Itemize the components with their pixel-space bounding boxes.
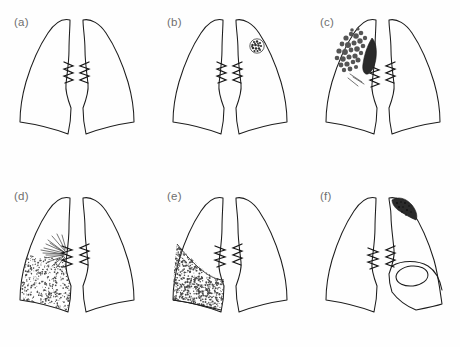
panel-e-diagram [153,174,306,347]
cluster-streaks [348,74,364,86]
basal-infiltrate [21,255,74,312]
lung-outline-left [20,20,71,134]
lung-outline-right [83,20,134,134]
panel-d-diagram [0,174,153,347]
hilar-mass [363,38,377,74]
panel-b-diagram [153,0,306,173]
panel-b: (b) [153,0,306,173]
lung-outline-right [389,20,440,134]
panel-c: (c) [306,0,459,173]
lung-outline-right [236,20,287,134]
panel-f-diagram [306,174,459,347]
lung-outline-right [236,198,287,312]
cavity-ring-lesion [395,264,429,287]
solitary-nodule [250,39,264,53]
lung-outline-left [173,20,224,134]
panel-c-diagram [306,0,459,173]
basal-opacity-fill [170,237,228,315]
lung-pattern-figure: (a) (b) [0,0,460,347]
nodular-cluster [335,27,368,72]
apical-cap [392,198,417,220]
panel-e: (e) [153,174,306,347]
panel-d: (d) [0,174,153,347]
lung-outline-right [83,198,134,312]
panel-a: (a) [0,0,153,173]
panel-a-diagram [0,0,153,173]
panel-f: (f) [306,174,459,347]
lung-outline-left [326,20,377,134]
